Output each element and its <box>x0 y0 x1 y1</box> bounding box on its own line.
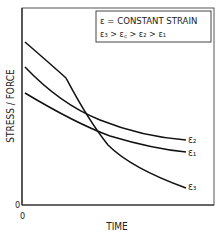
chart: ε = CONSTANT STRAIN ε₃ > ε꜀ > ε₂ > ε₁ ε₂… <box>0 0 222 236</box>
label-e1: ε₁ <box>188 147 197 158</box>
curve-e2 <box>25 67 186 140</box>
y-origin-label: 0 <box>15 200 20 210</box>
x-origin-label: 0 <box>20 211 25 221</box>
label-e3: ε₃ <box>188 181 197 192</box>
x-axis-label: TIME <box>105 221 128 232</box>
legend-line-2: ε₃ > ε꜀ > ε₂ > ε₁ <box>100 29 166 39</box>
y-axis-label: STRESS / FORCE <box>5 69 16 143</box>
label-e2: ε₂ <box>188 134 197 145</box>
legend-line-1: ε = CONSTANT STRAIN <box>100 15 197 26</box>
curve-e3 <box>25 42 186 188</box>
